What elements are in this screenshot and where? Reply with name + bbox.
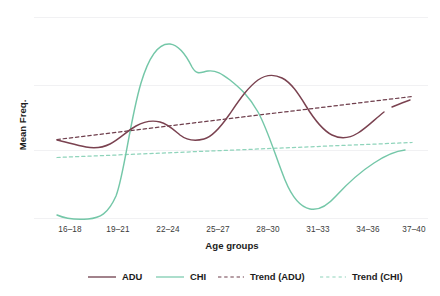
x-tick-label-5: 31–33	[306, 225, 330, 234]
x-tick-label-0: 16–18	[58, 225, 82, 234]
legend-label-trend-adu: Trend (ADU)	[250, 271, 305, 282]
x-tick-label-3: 25–27	[206, 225, 230, 234]
legend-label-chi: CHI	[190, 271, 206, 282]
y-axis-title: Mean Freq.	[17, 100, 28, 151]
x-tick-label-7: 37–40	[402, 225, 426, 234]
x-tick-label-4: 28–30	[256, 225, 280, 234]
legend-label-adu: ADU	[122, 271, 143, 282]
chart-container: 16–18 19–21 22–24 25–27 28–30 31–33 34–3…	[0, 0, 440, 296]
legend-label-trend-chi: Trend (CHI)	[352, 271, 403, 282]
x-tick-label-2: 22–24	[156, 225, 180, 234]
x-tick-label-1: 19–21	[106, 225, 130, 234]
chart-background	[0, 0, 440, 296]
x-axis-title: Age groups	[205, 240, 258, 251]
x-tick-label-6: 34–36	[356, 225, 380, 234]
mean-freq-line-chart: 16–18 19–21 22–24 25–27 28–30 31–33 34–3…	[0, 0, 440, 296]
